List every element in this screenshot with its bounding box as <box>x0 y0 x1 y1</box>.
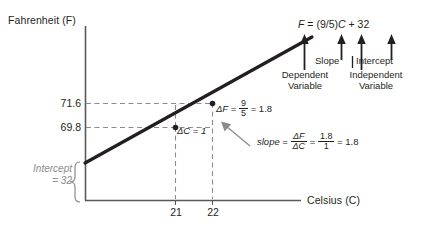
slope-formula-denominator-1: 1 <box>318 142 335 152</box>
intercept-note-line1: Intercept <box>12 163 72 175</box>
x-tick-label-22: 22 <box>205 206 221 218</box>
callout-label-independent-variable: Independent Variable <box>334 70 418 92</box>
slope-formula-equals-2: = <box>310 136 316 147</box>
delta-f-label: ΔF <box>216 103 228 114</box>
delta-c-annotation: ΔC = 1 <box>177 126 206 137</box>
chart-canvas: Fahrenheit (F) Celsius (C) 71.6 69.8 21 … <box>0 0 430 237</box>
y-tick-label-71-6: 71.6 <box>56 97 81 109</box>
slope-formula-equals-1: = <box>282 136 288 147</box>
x-axis-title: Celsius (C) <box>307 194 360 206</box>
x-tick-label-21: 21 <box>168 206 184 218</box>
slope-formula-fraction-deltas: ΔF ΔC <box>291 132 308 152</box>
slope-formula-result: = 1.8 <box>337 136 358 147</box>
delta-f-denominator: 5 <box>239 109 248 119</box>
callout-label-intercept: Intercept <box>356 56 393 67</box>
equation-coefficient: (9/5) <box>316 18 338 30</box>
delta-f-annotation: ΔF = 9 5 = 1.8 <box>216 99 272 119</box>
slope-formula-fraction-values: 1.8 1 <box>318 132 335 152</box>
intercept-note-line2: = 32 <box>12 175 72 187</box>
delta-f-fraction: 9 5 <box>239 99 248 119</box>
equation-variable: C <box>338 18 346 30</box>
callout-label-slope: Slope <box>315 56 339 67</box>
slope-formula: slope = ΔF ΔC = 1.8 1 = 1.8 <box>257 132 359 152</box>
equation-equals-sign: = <box>307 18 313 30</box>
callout-independent-line2: Variable <box>334 81 418 92</box>
delta-c-label: ΔC = 1 <box>177 125 206 136</box>
equation-lhs: F <box>298 18 304 30</box>
data-point-22-71-6 <box>210 101 216 107</box>
callout-label-dependent-variable: Dependent Variable <box>275 70 335 92</box>
slope-formula-word: slope <box>257 136 280 147</box>
intercept-note: Intercept = 32 <box>12 163 72 186</box>
equation-constant: 32 <box>358 18 370 30</box>
callout-dependent-line2: Variable <box>275 81 335 92</box>
y-tick-label-69-8: 69.8 <box>56 121 81 133</box>
delta-f-equals: = <box>231 103 237 114</box>
slope-formula-pointer-arrow <box>221 122 250 147</box>
equation: F = (9/5)C + 32 <box>298 18 369 30</box>
equation-plus-sign: + <box>349 18 355 30</box>
y-axis-title: Fahrenheit (F) <box>8 14 76 26</box>
delta-f-value: = 1.8 <box>251 103 272 114</box>
slope-formula-denominator-delta-c: ΔC <box>291 142 308 152</box>
chart-vector-layer <box>0 0 430 237</box>
